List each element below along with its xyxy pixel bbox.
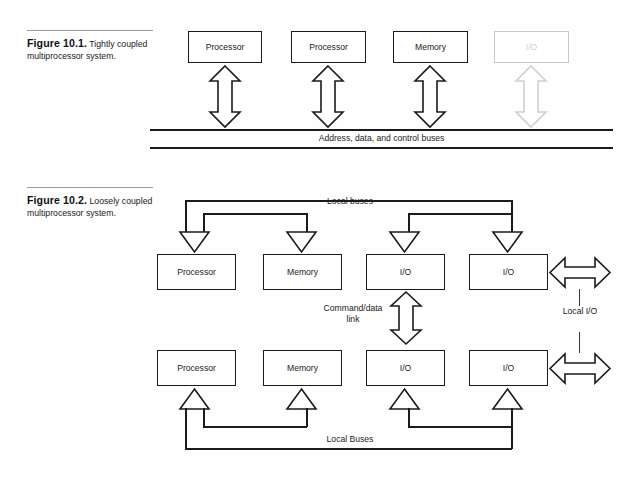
- top-bus-label: Local buses: [300, 196, 400, 206]
- bottom-outer-bus-horizontal: [185, 448, 512, 450]
- top-outer-bus-left-drop: [185, 200, 187, 232]
- node-processor-1: Processor: [188, 31, 262, 63]
- caption-rule: [27, 187, 153, 188]
- bottom-inner-left-a: [203, 408, 205, 427]
- bottom-bus-label: Local Buses: [300, 434, 400, 444]
- caption-text: Figure 10.2. Loosely coupled multiproces…: [27, 194, 155, 220]
- node-top-processor: Processor: [157, 254, 236, 290]
- node-bottom-memory: Memory: [263, 350, 342, 386]
- node-bottom-processor: Processor: [157, 350, 236, 386]
- node-label: Memory: [287, 363, 318, 373]
- down-arrow-icon: [178, 230, 211, 254]
- node-memory-1: Memory: [393, 31, 468, 63]
- node-label: I/O: [400, 267, 411, 277]
- node-label: I/O: [400, 363, 411, 373]
- caption-rule: [27, 30, 153, 31]
- bidirectional-arrow-icon-horizontal: [548, 352, 612, 385]
- bidirectional-arrow-icon: [207, 64, 243, 129]
- figure-caption-10-1: Figure 10.1. Tightly coupled multiproces…: [27, 30, 155, 63]
- caption-text: Figure 10.1. Tightly coupled multiproces…: [27, 37, 155, 63]
- node-bottom-io-1: I/O: [366, 350, 445, 386]
- node-top-io-2: I/O: [469, 254, 548, 290]
- figure-number: Figure 10.1.: [27, 37, 87, 49]
- top-inner-bus-horizontal-left: [203, 213, 307, 215]
- node-label: I/O: [503, 363, 514, 373]
- bidirectional-arrow-icon: [412, 64, 448, 129]
- bus-label: Address, data, and control buses: [150, 133, 613, 143]
- bus-line-top: [150, 129, 613, 131]
- figure-caption-10-2: Figure 10.2. Loosely coupled multiproces…: [27, 187, 155, 220]
- up-arrow-icon: [491, 387, 524, 411]
- up-arrow-icon: [285, 387, 318, 411]
- document-page: Figure 10.1. Tightly coupled multiproces…: [0, 0, 634, 478]
- local-io-leader-upper: [579, 289, 580, 306]
- bottom-outer-bus-left-rise: [185, 408, 187, 449]
- local-io-label: Local I/O: [556, 306, 604, 317]
- node-io-faded: I/O: [494, 31, 569, 63]
- bottom-outer-bus-right-rise: [511, 408, 513, 449]
- bidirectional-arrow-icon-horizontal: [548, 256, 612, 289]
- node-label: Memory: [287, 267, 318, 277]
- node-label: Processor: [177, 267, 216, 277]
- node-label: I/O: [526, 42, 537, 52]
- node-processor-2: Processor: [291, 31, 366, 63]
- down-arrow-icon: [285, 230, 318, 254]
- bottom-inner-bus-horizontal-right: [408, 426, 512, 428]
- figure-number: Figure 10.2.: [27, 194, 87, 206]
- up-arrow-icon: [388, 387, 421, 411]
- node-top-memory: Memory: [263, 254, 342, 290]
- node-label: I/O: [503, 267, 514, 277]
- down-arrow-icon: [388, 230, 421, 254]
- node-label: Processor: [206, 42, 245, 52]
- bus-line-bottom: [150, 147, 613, 149]
- bottom-inner-left-b: [306, 408, 308, 427]
- node-top-io-1: I/O: [366, 254, 445, 290]
- node-label: Processor: [309, 42, 348, 52]
- node-label: Processor: [177, 363, 216, 373]
- down-arrow-icon: [491, 230, 524, 254]
- bottom-inner-bus-horizontal-left: [203, 426, 307, 428]
- bidirectional-arrow-icon: [388, 290, 424, 346]
- local-io-leader-lower: [579, 332, 580, 353]
- top-inner-bus-horizontal-right: [408, 213, 512, 215]
- bottom-inner-right-a: [408, 408, 410, 427]
- up-arrow-icon: [178, 387, 211, 411]
- node-label: Memory: [415, 42, 446, 52]
- bidirectional-arrow-icon-faded: [513, 64, 549, 129]
- command-data-link-label: Command/data link: [322, 303, 384, 325]
- node-bottom-io-2: I/O: [469, 350, 548, 386]
- bidirectional-arrow-icon: [310, 64, 346, 129]
